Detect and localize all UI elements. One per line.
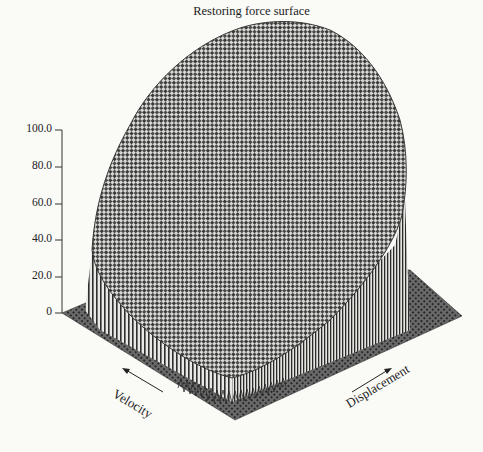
z-tick-label: 100.0 [2,122,52,134]
z-tick-label: 20.0 [2,269,52,281]
z-tick-label: 80.0 [2,159,52,171]
z-tick-label: 60.0 [2,196,52,208]
z-axis [55,130,62,313]
z-tick-label: 40.0 [2,232,52,244]
chart-title: Restoring force surface [0,4,483,19]
surface-plot [0,0,483,452]
chart-canvas: Restoring force surface 100.0 80.0 60.0 … [0,0,483,452]
z-tick-label: 0 [2,305,52,317]
